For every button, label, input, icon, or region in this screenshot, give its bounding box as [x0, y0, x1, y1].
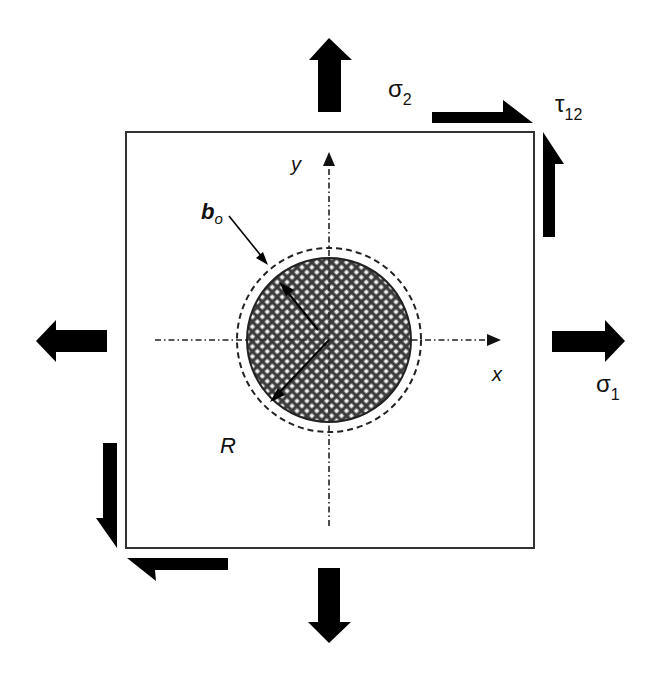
- interphase-label: bo: [201, 199, 223, 227]
- shear-arrow-right-icon: [543, 132, 564, 237]
- sigma1-label: σ1: [596, 370, 620, 403]
- stress-diagram: σ2 τ12 σ1 y x bo R: [0, 0, 659, 676]
- x-axis-arrowhead-icon: [487, 334, 501, 346]
- shear-arrow-left-icon: [96, 443, 117, 548]
- arrow-up-sigma2-icon: [309, 38, 352, 112]
- arrow-down-sigma2-icon: [308, 568, 351, 643]
- leader-arrowhead-icon: [256, 252, 268, 265]
- arrow-right-sigma1-icon: [552, 320, 625, 362]
- sigma2-label: σ2: [388, 75, 412, 108]
- interphase-leader: [229, 216, 268, 265]
- shear-arrow-bottom-icon: [127, 558, 228, 581]
- x-axis-label: x: [491, 363, 503, 385]
- tau12-label: τ12: [555, 90, 582, 123]
- radius-label: R: [220, 433, 236, 458]
- y-axis-label: y: [289, 153, 302, 175]
- y-axis-arrowhead-icon: [323, 152, 335, 166]
- arrow-left-sigma1-icon: [36, 320, 107, 362]
- shear-arrow-top-icon: [432, 100, 533, 123]
